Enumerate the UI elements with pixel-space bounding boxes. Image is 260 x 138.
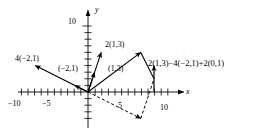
vector-label-2-1-3: 2(1,3)	[105, 41, 124, 49]
vector-diagram-figure: −10 −5 5 10 10 x y 4(−2,1) (−2,1) 2(1,3)…	[0, 0, 260, 138]
vector-label-4-neg2-1: 4(−2,1)	[15, 55, 39, 63]
x-axis-label: x	[186, 88, 190, 96]
x-tick-label-neg10: −10	[8, 100, 21, 108]
vector-leg-dashed	[141, 79, 154, 119]
resultant-expression-label: 2(1,3)−4(−2,1)+2(0,1)	[148, 59, 224, 68]
y-axis-label: y	[95, 6, 99, 14]
coordinate-plot	[0, 0, 260, 138]
vector-neg4-neg2-1-dashed	[88, 92, 141, 118]
x-tick-label-neg5: −5	[42, 100, 51, 108]
y-tick-label-10: 10	[68, 18, 76, 26]
x-tick-label-5: 5	[118, 102, 122, 110]
x-axis-arrowhead	[178, 90, 184, 95]
vector-label-1-3: (1,3)	[108, 65, 123, 73]
vector-label-neg2-1: (−2,1)	[58, 65, 78, 73]
y-axis-ticks	[83, 26, 92, 118]
y-axis-arrowhead	[86, 10, 91, 16]
x-tick-label-10: 10	[160, 104, 168, 112]
